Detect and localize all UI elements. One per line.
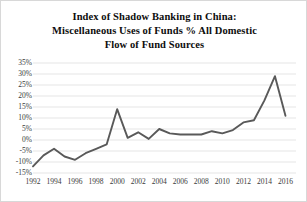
y-tick-label: -10% (4, 158, 32, 166)
x-axis-labels: 1992199419961998200020022004200620082010… (1, 177, 307, 191)
y-tick-label: 5% (4, 125, 32, 133)
data-series-line (33, 76, 285, 166)
y-tick-label: 25% (4, 81, 32, 89)
y-tick-label: 20% (4, 92, 32, 100)
y-axis-labels: 35%30%25%20%15%10%5%0%-5%-10%-15% (1, 1, 32, 202)
y-tick-label: 15% (4, 103, 32, 111)
gridlines (33, 63, 296, 173)
y-tick-label: -5% (4, 147, 32, 155)
y-tick-label: 0% (4, 136, 32, 144)
y-tick-label: 35% (4, 59, 32, 67)
plot-area: 35%30%25%20%15%10%5%0%-5%-10%-15% 199219… (1, 1, 307, 202)
y-tick-label: 10% (4, 114, 32, 122)
line-chart-svg (1, 1, 307, 202)
y-tick-label: -15% (4, 169, 32, 177)
x-tick-label: 2016 (272, 177, 298, 186)
chart-frame: Index of Shadow Banking in China: Miscel… (0, 0, 307, 202)
y-tick-label: 30% (4, 70, 32, 78)
